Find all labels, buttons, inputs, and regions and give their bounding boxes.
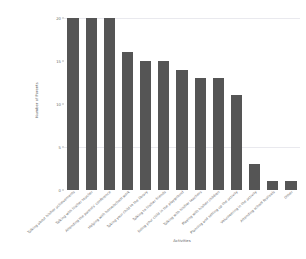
bars-group xyxy=(64,18,300,190)
bar[interactable] xyxy=(104,18,115,190)
x-axis-title: Activities xyxy=(64,238,300,243)
y-axis-title: Number of Parents xyxy=(30,60,44,140)
bar-chart-figure: Number of Parents 05101520 Talking about… xyxy=(0,0,306,259)
bar[interactable] xyxy=(213,78,224,190)
bar[interactable] xyxy=(140,61,151,190)
bar[interactable] xyxy=(158,61,169,190)
bar[interactable] xyxy=(267,181,278,190)
bar[interactable] xyxy=(249,164,260,190)
y-tick-label: 20 xyxy=(56,16,61,21)
y-tick-label: 0 xyxy=(59,188,61,193)
bar[interactable] xyxy=(285,181,296,190)
y-axis-title-text: Number of Parents xyxy=(35,82,39,117)
y-tick-label: 15 xyxy=(56,59,61,64)
bar[interactable] xyxy=(231,95,242,190)
bar[interactable] xyxy=(176,70,187,190)
x-tick-labels-group: Talking about his/her achievementsTalkin… xyxy=(64,190,300,236)
bar[interactable] xyxy=(86,18,97,190)
y-tick-label: 5 xyxy=(59,145,61,150)
plot-area: 05101520 xyxy=(64,18,300,190)
y-tick-label: 10 xyxy=(56,102,61,107)
bar[interactable] xyxy=(122,52,133,190)
bar[interactable] xyxy=(67,18,78,190)
bar[interactable] xyxy=(195,78,206,190)
